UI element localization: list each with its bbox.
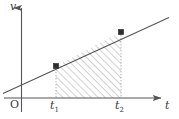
y-axis-label: v xyxy=(10,1,16,12)
t2-subscript: 2 xyxy=(119,106,123,114)
graph-canvas xyxy=(0,0,179,119)
x-tick-label-t1: t1 xyxy=(50,100,59,114)
data-point-t2 xyxy=(118,29,123,34)
velocity-time-graph-figure: v t O t1 t2 xyxy=(0,0,179,119)
origin-label: O xyxy=(10,99,19,110)
t1-subscript: 1 xyxy=(54,106,58,114)
data-point-t1 xyxy=(53,63,58,68)
x-tick-label-t2: t2 xyxy=(115,100,124,114)
x-axis-label: t xyxy=(165,100,169,111)
